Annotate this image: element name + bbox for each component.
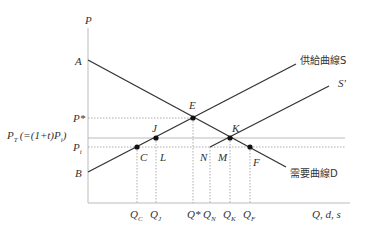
label-l: L — [159, 151, 166, 163]
point-k — [227, 135, 232, 140]
point-j — [153, 135, 158, 140]
tick-pi: Pi — [72, 141, 82, 156]
y-axis-label: P — [84, 14, 92, 26]
label-j: J — [152, 122, 158, 134]
tick-pt: PT(=(1+t)Pi) — [6, 129, 67, 144]
label-b: B — [75, 167, 82, 179]
supply-demand-diagram: P Q, d, s 供給曲線S S′ 需要曲線D A B C E J K L N… — [0, 0, 370, 238]
label-f: F — [252, 156, 260, 168]
supply-shifted-label: S′ — [338, 77, 347, 89]
label-e: E — [188, 99, 196, 111]
tick-qc: QC — [130, 208, 143, 223]
point-f — [247, 144, 252, 149]
demand-curve — [88, 60, 286, 167]
label-k: K — [231, 122, 240, 134]
label-m: M — [217, 151, 228, 163]
tick-qn: QN — [203, 208, 216, 223]
label-a: A — [74, 55, 82, 67]
point-e — [190, 115, 195, 120]
tick-qk: QK — [223, 208, 236, 223]
label-c: C — [140, 151, 148, 163]
tick-qf: QF — [243, 208, 256, 223]
demand-curve-label: 需要曲線D — [290, 167, 338, 179]
tick-qstar: Q* — [187, 208, 201, 220]
supply-curve-label: 供給曲線S — [300, 54, 346, 66]
tick-qj: QJ — [150, 208, 162, 223]
label-n: N — [199, 151, 208, 163]
x-axis-label: Q, d, s — [312, 208, 341, 220]
tick-p-star: P* — [72, 112, 86, 124]
point-c — [134, 144, 139, 149]
